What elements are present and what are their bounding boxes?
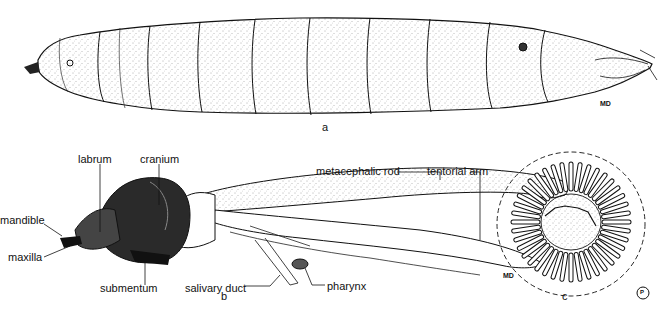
label-metacephalic-rod: metacephalic rod [316, 165, 400, 177]
label-salivary-duct: salivary duct [185, 282, 246, 294]
salivary-duct [255, 238, 298, 285]
label-submentum: submentum [100, 282, 157, 294]
label-tentorial-arm: tentorial arm [427, 165, 488, 177]
panel-b-caption: b [221, 290, 227, 302]
artist-initials-c: P [640, 289, 644, 295]
larva-body [38, 18, 652, 113]
artist-initials-b: MD [503, 272, 514, 279]
spiracle-center [541, 194, 601, 250]
label-pharynx: pharynx [327, 280, 366, 292]
label-labrum: labrum [78, 153, 112, 165]
label-mandible: mandible [0, 214, 45, 226]
panel-a-caption: a [322, 121, 328, 133]
mandible [60, 236, 82, 248]
larva-drawing [24, 18, 657, 115]
label-cranium: cranium [140, 153, 179, 165]
pharynx [292, 259, 308, 269]
cephalopharyngeal-skeleton [60, 168, 568, 285]
label-maxilla: maxilla [8, 251, 42, 263]
larva-anterior-spiracle [519, 43, 527, 51]
panel-c-caption: c [562, 290, 568, 302]
artist-initials-a: MD [600, 100, 611, 107]
larva-posterior-tip [24, 62, 40, 74]
